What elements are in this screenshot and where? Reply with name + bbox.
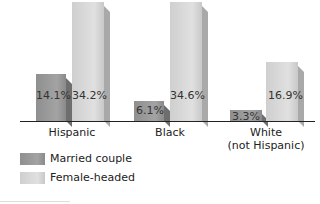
- value-label: 14.1%: [36, 89, 71, 102]
- legend-swatch-female: [20, 172, 45, 184]
- value-label: 6.1%: [136, 104, 164, 117]
- legend-label-female: Female-headed: [50, 171, 135, 184]
- bar-black-female: [170, 2, 202, 121]
- category-label-white-line2: (not Hispanic): [216, 139, 316, 152]
- value-label: 34.6%: [170, 89, 205, 102]
- legend-swatch-married: [20, 153, 45, 165]
- divider: [0, 201, 70, 202]
- legend-label-married: Married couple: [50, 152, 132, 165]
- x-axis: [20, 121, 315, 122]
- category-label-white-line1: White: [216, 126, 316, 139]
- bar-side: [104, 6, 110, 127]
- category-label-black: Black: [120, 126, 220, 139]
- category-label-white: White (not Hispanic): [216, 126, 316, 152]
- bar-side: [202, 6, 208, 127]
- value-label: 34.2%: [72, 89, 107, 102]
- bar-hispanic-female: [72, 2, 104, 121]
- value-label: 16.9%: [268, 89, 303, 102]
- category-label-hispanic: Hispanic: [22, 126, 122, 139]
